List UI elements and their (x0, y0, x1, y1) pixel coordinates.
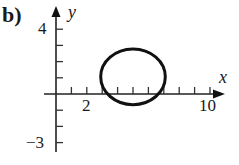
y-tick-label-neg3: −3 (26, 133, 44, 152)
x-ticks (71, 87, 210, 94)
figure: b) y x 4 −3 2 10 (0, 0, 239, 165)
x-tick-label-2: 2 (82, 96, 91, 115)
x-axis-label: x (218, 67, 227, 87)
y-ticks (56, 29, 63, 142)
panel-label: b) (2, 2, 22, 27)
y-axis-arrow-icon (52, 6, 61, 17)
circle-curve (101, 49, 166, 105)
y-tick-label-4: 4 (38, 19, 47, 38)
y-axis-label: y (66, 2, 76, 22)
x-tick-label-10: 10 (199, 96, 216, 115)
